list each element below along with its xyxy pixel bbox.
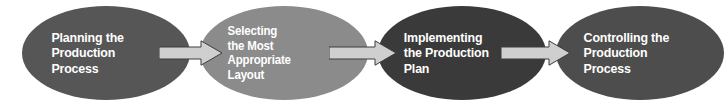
process-flow-diagram: Planning the Production Process Selectin… [0,0,725,106]
right-arrow-glyph [501,40,571,66]
right-arrow-icon [159,40,223,66]
process-node-controlling[interactable]: Controlling the Production Process [556,6,724,100]
process-node-label-planning: Planning the Production Process [22,30,124,77]
process-node-label-controlling: Controlling the Production Process [556,30,669,77]
right-arrow-glyph [329,40,397,66]
right-arrow-icon [501,40,571,66]
right-arrow-icon [329,40,397,66]
right-arrow-glyph [159,40,223,66]
